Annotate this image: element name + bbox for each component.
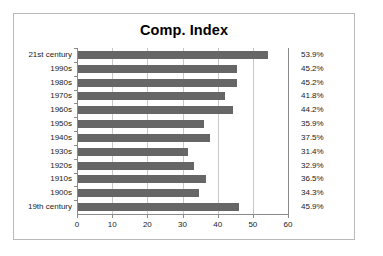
value-label: 41.8% <box>301 92 324 100</box>
y-tick <box>74 200 77 201</box>
value-label: 34.3% <box>301 189 324 197</box>
y-tick <box>74 48 77 49</box>
chart-frame: Comp. Index 0102030405060 21st century53… <box>13 13 355 240</box>
x-tick-label: 30 <box>178 220 187 229</box>
y-tick <box>74 76 77 77</box>
bar <box>78 203 239 211</box>
category-label: 1960s <box>50 106 72 114</box>
value-label: 35.9% <box>301 120 324 128</box>
chart-row: 1980s45.2% <box>77 76 289 90</box>
category-label: 1980s <box>50 79 72 87</box>
chart-row: 1970s41.8% <box>77 90 289 104</box>
x-tick-60 <box>288 214 289 218</box>
y-tick <box>74 186 77 187</box>
y-tick <box>74 145 77 146</box>
bar <box>78 148 188 156</box>
bar <box>78 79 237 87</box>
plot-area: 0102030405060 21st century53.9%1990s45.2… <box>77 48 289 214</box>
category-label: 21st century <box>28 51 72 59</box>
chart-row: 1990s45.2% <box>77 62 289 76</box>
x-tick-label: 10 <box>108 220 117 229</box>
bar <box>78 106 233 114</box>
chart-row: 1950s35.9% <box>77 117 289 131</box>
x-tick-10 <box>112 214 113 218</box>
x-tick-label: 0 <box>75 220 79 229</box>
category-label: 19th century <box>28 203 72 211</box>
y-tick <box>74 159 77 160</box>
x-tick-label: 20 <box>143 220 152 229</box>
y-tick <box>74 103 77 104</box>
value-label: 36.5% <box>301 175 324 183</box>
category-label: 1950s <box>50 120 72 128</box>
category-label: 1990s <box>50 65 72 73</box>
chart-row: 1930s31.4% <box>77 145 289 159</box>
chart-row: 1900s34.3% <box>77 186 289 200</box>
x-tick-50 <box>253 214 254 218</box>
value-label: 32.9% <box>301 162 324 170</box>
category-label: 1900s <box>50 189 72 197</box>
category-label: 1910s <box>50 175 72 183</box>
y-tick <box>74 117 77 118</box>
bar <box>78 162 194 170</box>
chart-row: 1920s32.9% <box>77 159 289 173</box>
chart-row: 19th century45.9% <box>77 200 289 214</box>
bar <box>78 65 237 73</box>
value-label: 45.2% <box>301 65 324 73</box>
category-label: 1920s <box>50 162 72 170</box>
y-tick <box>74 62 77 63</box>
chart-row: 1960s44.2% <box>77 103 289 117</box>
x-tick-label: 60 <box>284 220 293 229</box>
x-tick-label: 50 <box>248 220 257 229</box>
category-label: 1970s <box>50 92 72 100</box>
x-tick-20 <box>147 214 148 218</box>
x-tick-30 <box>183 214 184 218</box>
category-label: 1940s <box>50 134 72 142</box>
chart-title: Comp. Index <box>14 22 354 38</box>
bar <box>78 92 225 100</box>
value-label: 45.2% <box>301 79 324 87</box>
value-label: 37.5% <box>301 134 324 142</box>
value-label: 53.9% <box>301 51 324 59</box>
value-label: 44.2% <box>301 106 324 114</box>
x-tick-40 <box>218 214 219 218</box>
bar <box>78 51 268 59</box>
y-tick <box>74 90 77 91</box>
bar <box>78 175 206 183</box>
y-tick <box>74 173 77 174</box>
bar <box>78 134 210 142</box>
bar <box>78 189 199 197</box>
x-tick-0 <box>77 214 78 218</box>
value-label: 45.9% <box>301 203 324 211</box>
chart-row: 1940s37.5% <box>77 131 289 145</box>
bar <box>78 120 204 128</box>
chart-row: 21st century53.9% <box>77 48 289 62</box>
y-tick <box>74 131 77 132</box>
value-label: 31.4% <box>301 148 324 156</box>
chart-row: 1910s36.5% <box>77 173 289 187</box>
category-label: 1930s <box>50 148 72 156</box>
x-tick-label: 40 <box>213 220 222 229</box>
